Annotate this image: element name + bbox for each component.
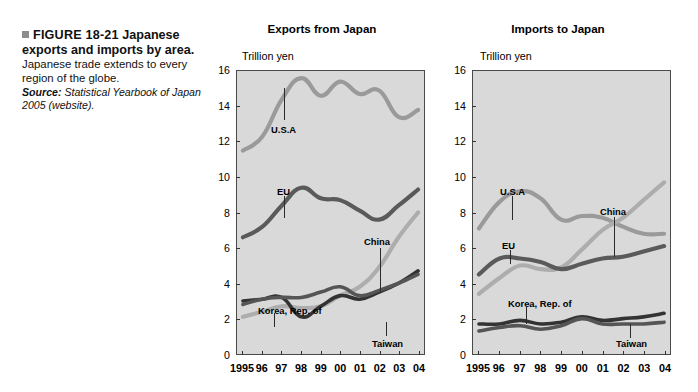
- x-tick-label: 01: [597, 362, 609, 374]
- y-axis-unit-imports: Trillion yen: [480, 50, 532, 62]
- x-tick-label: 99: [555, 362, 567, 374]
- x-tick-label: 04: [659, 362, 671, 374]
- y-tick-mark: [472, 319, 476, 320]
- y-tick-label: 10: [210, 171, 230, 183]
- x-tick-mark: [321, 351, 322, 355]
- x-tick-label: 1995: [230, 362, 254, 374]
- chart-title-imports: Imports to Japan: [452, 22, 664, 35]
- series-annotation-label: China: [364, 236, 390, 247]
- annotation-leader-line: [284, 196, 285, 218]
- x-tick-label: 98: [534, 362, 546, 374]
- x-tick-label: 1995: [466, 362, 490, 374]
- y-tick-label: 6: [210, 242, 230, 254]
- series-annotation-label: Korea, Rep. of: [508, 298, 572, 309]
- x-tick-mark: [603, 351, 604, 355]
- series-annotation-label: Korea, Rep. of: [258, 305, 322, 316]
- x-tick-mark: [281, 351, 282, 355]
- x-tick-mark: [399, 351, 400, 355]
- y-tick-label: 12: [446, 135, 466, 147]
- y-axis-unit-exports: Trillion yen: [242, 50, 294, 62]
- y-tick-label: 4: [446, 278, 466, 290]
- y-tick-label: 4: [210, 278, 230, 290]
- x-tick-mark: [540, 351, 541, 355]
- x-tick-label: 02: [374, 362, 386, 374]
- x-tick-label: 98: [295, 362, 307, 374]
- x-tick-mark: [499, 351, 500, 355]
- x-tick-label: 03: [638, 362, 650, 374]
- x-tick-mark: [340, 351, 341, 355]
- series-annotation-label: Taiwan: [372, 338, 403, 349]
- y-tick-label: 0: [446, 349, 466, 361]
- series-line-u-s-a: [243, 78, 418, 151]
- x-tick-mark: [520, 351, 521, 355]
- y-tick-mark: [472, 248, 476, 249]
- annotation-leader-line: [380, 248, 381, 292]
- x-tick-mark: [561, 351, 562, 355]
- y-tick-label: 0: [210, 349, 230, 361]
- x-tick-mark: [644, 351, 645, 355]
- annotation-leader-line: [510, 250, 511, 264]
- chart-panel-imports: Imports to Japan Trillion yen 1614121086…: [450, 0, 698, 392]
- x-tick-label: 99: [315, 362, 327, 374]
- y-tick-mark: [472, 177, 476, 178]
- plot-area-imports: [472, 70, 671, 355]
- y-tick-mark: [236, 177, 240, 178]
- series-line-eu: [243, 188, 418, 238]
- x-tick-label: 96: [493, 362, 505, 374]
- x-tick-label: 96: [256, 362, 268, 374]
- y-tick-label: 12: [210, 135, 230, 147]
- figure-number: FIGURE 18-21: [33, 28, 119, 42]
- figure-caption: FIGURE 18-21 Japanese exports and import…: [22, 28, 212, 111]
- x-tick-label: 97: [514, 362, 526, 374]
- y-tick-label: 10: [446, 171, 466, 183]
- source-label: Source:: [22, 86, 61, 98]
- bullet-square-icon: [22, 31, 29, 38]
- series-line-u-s-a: [479, 191, 664, 234]
- x-tick-mark: [478, 351, 479, 355]
- x-tick-mark: [301, 351, 302, 355]
- annotation-leader-line: [526, 307, 527, 324]
- annotation-leader-line: [386, 322, 387, 336]
- y-tick-label: 16: [446, 64, 466, 76]
- series-line-china: [479, 182, 664, 293]
- annotation-leader-line: [512, 196, 513, 220]
- series-annotation-label: Taiwan: [616, 338, 647, 349]
- x-tick-mark: [582, 351, 583, 355]
- y-tick-label: 16: [210, 64, 230, 76]
- chart-panel-exports: Exports from Japan Trillion yen 16141210…: [214, 0, 444, 392]
- y-tick-mark: [236, 141, 240, 142]
- series-annotation-label: EU: [502, 240, 515, 251]
- annotation-leader-line: [274, 313, 275, 327]
- y-tick-mark: [236, 106, 240, 107]
- x-tick-label: 04: [413, 362, 425, 374]
- figure-description: Japanese trade extends to every region o…: [22, 58, 212, 85]
- series-annotation-label: U.S.A: [271, 124, 296, 135]
- y-tick-mark: [472, 213, 476, 214]
- x-tick-mark: [665, 351, 666, 355]
- x-tick-mark: [380, 351, 381, 355]
- y-tick-label: 2: [446, 313, 466, 325]
- x-tick-label: 01: [354, 362, 366, 374]
- series-line-taiwan: [479, 319, 664, 331]
- y-tick-mark: [472, 106, 476, 107]
- y-tick-label: 2: [210, 313, 230, 325]
- y-tick-mark: [236, 319, 240, 320]
- y-tick-mark: [236, 284, 240, 285]
- x-tick-mark: [360, 351, 361, 355]
- y-tick-mark: [472, 284, 476, 285]
- y-tick-label: 8: [210, 207, 230, 219]
- x-tick-mark: [262, 351, 263, 355]
- x-tick-mark: [242, 351, 243, 355]
- y-tick-mark: [472, 141, 476, 142]
- y-tick-label: 14: [210, 100, 230, 112]
- lines-imports: [473, 71, 670, 354]
- y-tick-label: 6: [446, 242, 466, 254]
- x-tick-label: 97: [275, 362, 287, 374]
- x-tick-mark: [623, 351, 624, 355]
- y-tick-mark: [236, 213, 240, 214]
- annotation-leader-line: [614, 217, 615, 257]
- annotation-leader-line: [284, 88, 285, 120]
- x-tick-label: 00: [334, 362, 346, 374]
- series-annotation-label: China: [600, 206, 626, 217]
- x-tick-label: 03: [393, 362, 405, 374]
